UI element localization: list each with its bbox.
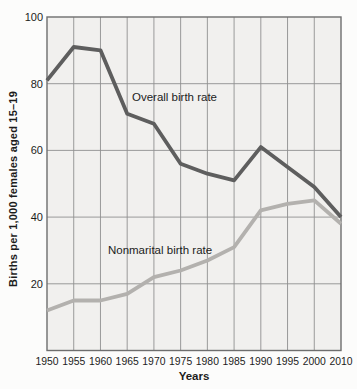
- x-tick-label: 1990: [249, 356, 272, 367]
- series-inline-label: Overall birth rate: [132, 91, 217, 103]
- x-axis-title: Years: [47, 370, 341, 382]
- x-tick-label: 2000: [303, 356, 326, 367]
- y-axis-title: Births per 1,000 females aged 15–19: [7, 24, 19, 354]
- x-tick-label: 1960: [89, 356, 112, 367]
- x-tick-label: 1975: [169, 356, 192, 367]
- series-inline-label: Nonmarital birth rate: [108, 244, 212, 256]
- y-tick-label: 20: [31, 278, 43, 290]
- y-tick-label: 100: [25, 11, 43, 23]
- y-tick-label: 60: [31, 144, 43, 156]
- chart-figure: 2040608010019501955196019651970197519801…: [0, 0, 357, 389]
- x-tick-label: 2010: [329, 356, 352, 367]
- x-tick-label: 1970: [142, 356, 165, 367]
- line-chart: 2040608010019501955196019651970197519801…: [0, 0, 357, 389]
- x-tick-label: 1995: [276, 356, 299, 367]
- x-tick-label: 1965: [116, 356, 139, 367]
- y-tick-label: 80: [31, 78, 43, 90]
- x-tick-label: 1985: [223, 356, 246, 367]
- x-tick-label: 1980: [196, 356, 219, 367]
- x-tick-label: 1955: [62, 356, 85, 367]
- x-tick-label: 1950: [35, 356, 58, 367]
- y-tick-label: 40: [31, 211, 43, 223]
